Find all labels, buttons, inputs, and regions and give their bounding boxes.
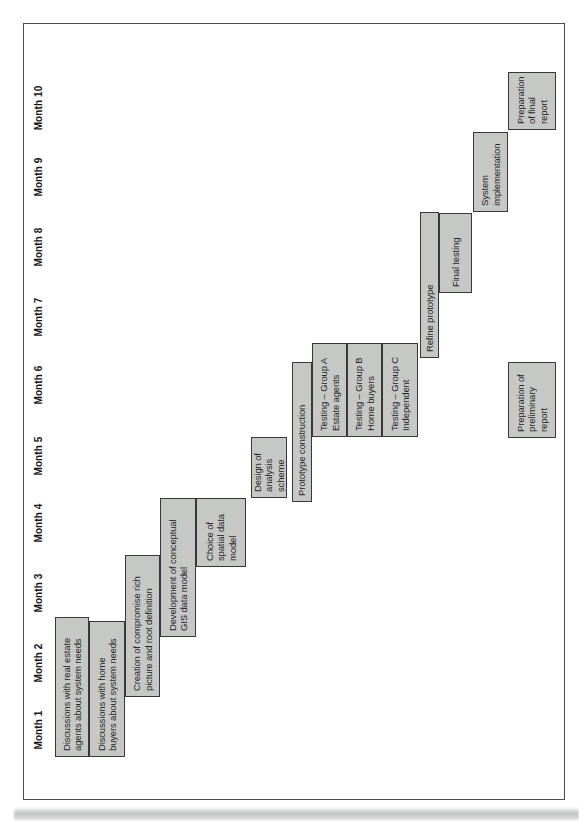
page-scan-artifact [14,808,579,820]
task-bar: Discussions with home buyers about syste… [89,621,125,757]
month-label: Month 1 [31,696,47,764]
month-label: Month 10 [31,74,47,142]
month-label: Month 5 [31,422,47,490]
task-bar: Prototype construction [292,362,312,502]
task-bar: Preparation of final report [508,72,556,130]
task-bar: Testing – Group C Independent [382,343,418,437]
task-bar: Testing – Group B Home buyers [347,343,382,437]
task-bar: Creation of compromise rich picture and … [125,555,160,697]
task-bar: Testing – Group A Estate agents [312,343,347,437]
task-bar: System implementation [473,132,508,212]
month-label: Month 2 [31,629,47,697]
month-label: Month 4 [31,489,47,557]
month-label: Month 8 [31,213,47,281]
task-bar: Design of analysis scheme [251,437,287,498]
month-label: Month 6 [31,351,47,419]
month-label: Month 3 [31,559,47,627]
month-label: Month 7 [31,283,47,351]
task-bar: Discussions with real estate agents abou… [55,617,89,757]
gantt-plot: Month 1Month 2Month 3Month 4Month 5Month… [0,0,579,821]
task-bar: Preparation of preliminary report [508,362,556,438]
task-bar: Refine prototype [420,212,439,358]
task-bar: Final testing [439,213,472,293]
page: { "page": { "description": "Scanned book… [0,0,579,821]
task-bar: Development of conceptual GIS data model [160,498,196,637]
task-bar: Choice of spatial data model [196,498,246,567]
month-label: Month 9 [31,143,47,211]
